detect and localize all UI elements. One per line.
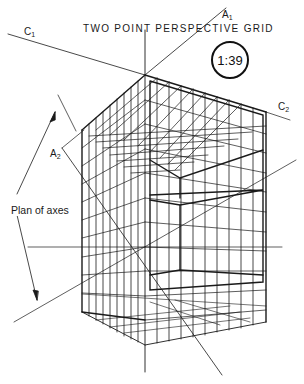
axis-label-c2: C2 [278, 102, 289, 113]
left-face-verticals [82, 81, 138, 342]
interior-room-frame [150, 81, 263, 290]
axis-label-a1-letter: A [222, 9, 229, 20]
axis-label-c2-sub: 2 [285, 106, 289, 113]
plan-leader-line [58, 95, 76, 131]
axis-label-a2-sub: 2 [57, 153, 61, 160]
left-face-horizontals [82, 100, 145, 320]
figure-title: TWO POINT PERSPECTIVE GRID [83, 24, 274, 34]
axis-label-a2: A2 [50, 149, 61, 160]
axis-label-a2-letter: A [50, 148, 57, 159]
axis-c1-line [8, 34, 145, 75]
axis-label-c1: C1 [24, 27, 35, 38]
a2-leader-line [62, 130, 84, 148]
axis-label-a1-sub: 1 [229, 14, 233, 21]
scale-badge: 1:39 [211, 41, 249, 79]
perspective-grid-drawing [0, 0, 304, 384]
axis-c2-line [266, 112, 290, 120]
right-face-horizontals [145, 100, 266, 320]
axis-c2-extension-line [14, 160, 296, 322]
axis-label-c1-sub: 1 [31, 31, 35, 38]
scale-badge-text: 1:39 [217, 53, 242, 68]
plan-of-axes-arrow-down [17, 215, 38, 300]
right-face-verticals [157, 78, 266, 343]
axis-label-a1: A1 [222, 10, 233, 21]
plan-of-axes-annotation: Plan of axes [10, 205, 70, 216]
